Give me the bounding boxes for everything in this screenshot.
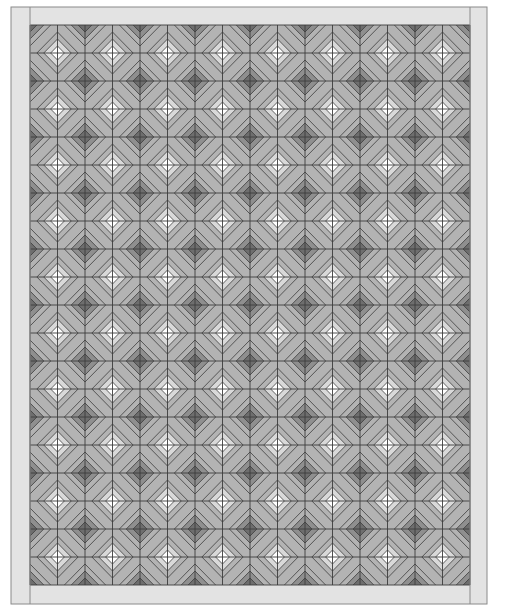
quilt-canvas xyxy=(0,0,505,616)
block-grid-lines xyxy=(30,25,470,585)
